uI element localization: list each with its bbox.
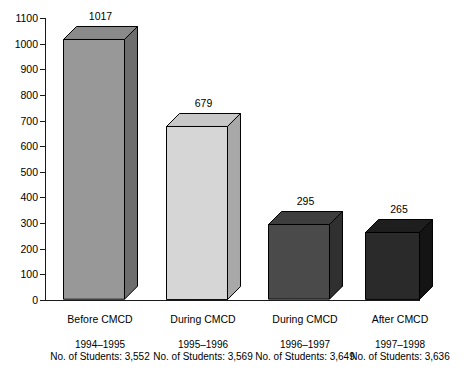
bar-front-face-4 xyxy=(366,233,420,300)
y-axis-tick-label-text: 300 xyxy=(2,218,38,228)
bar-4 xyxy=(365,219,433,300)
y-axis-tick xyxy=(40,223,46,224)
y-axis-tick-label-text: 800 xyxy=(2,90,38,100)
y-axis-tick-label: 1100 xyxy=(0,13,38,23)
y-axis-tick xyxy=(40,300,46,301)
y-axis-tick-label: 600 xyxy=(0,141,38,151)
y-axis-tick-label-text: 1000 xyxy=(2,39,38,49)
y-axis-tick-label-text: 500 xyxy=(2,167,38,177)
bar-3 xyxy=(268,211,343,300)
y-axis-tick-label: 100 xyxy=(0,269,38,279)
category-title-4: After CMCD xyxy=(320,313,469,325)
bar-front-face-1 xyxy=(64,40,125,300)
y-axis-tick-label: 700 xyxy=(0,116,38,126)
y-axis-tick xyxy=(40,121,46,122)
y-axis-tick xyxy=(40,172,46,173)
bar-chart: 010020030040050060070080090010001100 101… xyxy=(0,0,469,369)
y-axis-tick xyxy=(40,146,46,147)
y-axis-tick xyxy=(40,95,46,96)
y-axis-tick-label-text: 1100 xyxy=(2,13,38,23)
y-axis-tick-label: 500 xyxy=(0,167,38,177)
y-axis-tick-label: 1000 xyxy=(0,39,38,49)
bar-side-face-1 xyxy=(124,27,137,300)
y-axis-tick xyxy=(40,249,46,250)
y-axis-tick-label: 900 xyxy=(0,64,38,74)
x-axis-baseline xyxy=(45,300,420,301)
value-label-4: 265 xyxy=(365,204,433,215)
y-axis-tick-label: 200 xyxy=(0,244,38,254)
y-axis-tick-label-text: 700 xyxy=(2,116,38,126)
y-axis-tick xyxy=(40,44,46,45)
bar-2 xyxy=(166,113,241,300)
y-axis-tick xyxy=(40,274,46,275)
value-label-2: 679 xyxy=(166,98,241,109)
y-axis-tick-label-text: 400 xyxy=(2,192,38,202)
y-axis-tick xyxy=(40,197,46,198)
bar-side-face-4 xyxy=(419,220,432,300)
value-label-3: 295 xyxy=(268,196,343,207)
y-axis-tick-label-text: 900 xyxy=(2,64,38,74)
y-axis-tick-label-text: 600 xyxy=(2,141,38,151)
y-axis-tick xyxy=(40,69,46,70)
category-years-4: 1997–1998 xyxy=(320,339,469,351)
category-group-4: After CMCD1997–1998No. of Students: 3,63… xyxy=(320,313,469,363)
bar-front-face-2 xyxy=(167,126,228,299)
value-label-1: 1017 xyxy=(63,11,138,22)
plot-area: 010020030040050060070080090010001100 101… xyxy=(0,0,469,369)
bar-front-face-3 xyxy=(269,225,330,300)
y-axis-tick-label-text: 200 xyxy=(2,244,38,254)
y-axis-tick-label-text: 100 xyxy=(2,269,38,279)
y-axis-tick-label-text: 0 xyxy=(2,295,38,305)
y-axis-tick-label: 400 xyxy=(0,192,38,202)
category-students-4: No. of Students: 3,636 xyxy=(320,351,469,363)
bar-1 xyxy=(63,26,138,300)
bar-side-face-2 xyxy=(227,113,240,299)
y-axis-line xyxy=(45,18,46,301)
y-axis-tick xyxy=(40,18,46,19)
y-axis-tick-label: 800 xyxy=(0,90,38,100)
y-axis-tick-label: 300 xyxy=(0,218,38,228)
y-axis-tick-label: 0 xyxy=(0,295,38,305)
bar-side-face-3 xyxy=(329,212,342,300)
